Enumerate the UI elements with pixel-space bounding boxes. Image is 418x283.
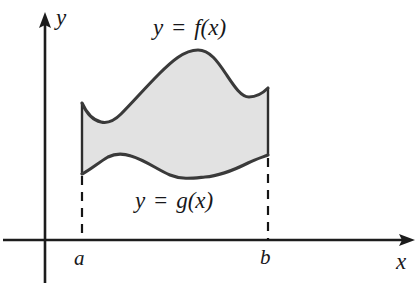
upper-curve-label-y: y bbox=[153, 15, 163, 40]
lower-curve-label-equals: = bbox=[154, 188, 167, 213]
upper-curve-label-fn: f(x) bbox=[194, 15, 226, 40]
upper-curve-label-equals: = bbox=[172, 15, 185, 40]
figure-canvas: y x a b y=f(x) y=g(x) bbox=[0, 0, 418, 283]
tick-label-b: b bbox=[260, 247, 271, 268]
shaded-area-region bbox=[82, 50, 268, 178]
tick-label-a: a bbox=[74, 248, 85, 269]
x-axis-label: x bbox=[396, 250, 406, 273]
lower-curve-label: y=g(x) bbox=[135, 189, 213, 212]
lower-curve-label-y: y bbox=[135, 188, 145, 213]
upper-curve-label: y=f(x) bbox=[153, 16, 226, 39]
y-axis-label: y bbox=[56, 6, 66, 29]
lower-curve-label-fn: g(x) bbox=[176, 188, 213, 213]
area-between-curves-diagram bbox=[0, 0, 418, 283]
